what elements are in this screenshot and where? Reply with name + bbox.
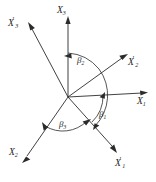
axis-label-x1-sub: 1 <box>143 101 146 107</box>
axis-line-x1-prime <box>68 97 112 146</box>
angle-sub-beta1: 1 <box>103 114 106 120</box>
arrowhead-x2 <box>22 157 30 163</box>
axis-x1-prime <box>68 97 117 153</box>
angle-sub-beta2: 2 <box>81 60 84 66</box>
axis-label-x2-prime-sub: 2 <box>135 62 138 68</box>
angle-sub-beta3: 3 <box>63 124 66 130</box>
axis-label-x2-base: X <box>9 147 15 157</box>
axis-x3-prime <box>28 22 68 97</box>
angle-arc-beta3 <box>42 119 91 131</box>
coordinate-axes-figure: X3 X1 X2 X'3 X'2 X'1 β1 β2 β3 <box>0 0 156 182</box>
axis-label-x3: X3 <box>57 6 66 16</box>
arrowhead-arc-beta3-end <box>83 119 91 126</box>
axis-label-x3-base: X <box>57 5 63 15</box>
axis-label-x2: X2 <box>9 148 18 158</box>
axis-label-x1-prime-sub: 1 <box>122 163 125 169</box>
arrowhead-x1 <box>140 90 148 95</box>
axis-x2 <box>22 97 68 163</box>
axis-label-x3-prime: X'3 <box>8 19 18 29</box>
axis-label-x2-sub: 2 <box>15 152 18 158</box>
axis-label-x3-sub: 3 <box>63 10 66 16</box>
axis-label-x3-prime-sub: 3 <box>15 23 18 29</box>
arrowhead-x3-prime <box>28 22 35 31</box>
angle-label-beta1: β1 <box>99 110 106 119</box>
axis-label-x1-prime: X'1 <box>115 159 125 169</box>
arrowhead-x1-prime <box>110 145 117 153</box>
axes-diagram-svg <box>0 0 156 182</box>
angle-label-beta3: β3 <box>59 120 66 129</box>
axis-label-x1-base: X <box>137 96 143 106</box>
axis-label-x2-prime: X'2 <box>128 58 138 68</box>
axis-line-x1 <box>68 93 142 97</box>
angle-label-beta2: β2 <box>77 56 84 65</box>
axis-label-x1: X1 <box>137 97 146 107</box>
axis-line-x3-prime <box>32 29 68 97</box>
arrowhead-x3 <box>65 16 70 24</box>
